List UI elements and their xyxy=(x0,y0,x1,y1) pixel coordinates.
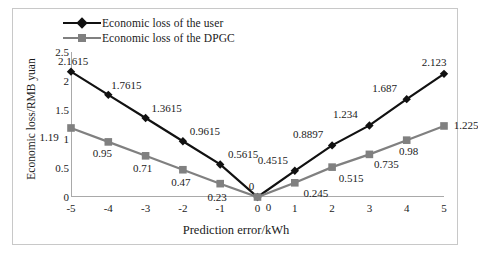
series-lines xyxy=(71,52,444,197)
data-label-dpgc: 1.225 xyxy=(454,119,478,130)
data-point-marker xyxy=(366,151,374,159)
data-label-user: 1.7615 xyxy=(111,79,141,90)
legend-item-dpgc: Economic loss of the DPGC xyxy=(63,30,393,45)
x-tick-label: -2 xyxy=(168,202,198,214)
data-label-dpgc: 0.735 xyxy=(374,159,399,170)
data-point-marker xyxy=(440,122,448,130)
data-point-marker xyxy=(291,179,299,187)
data-point-marker xyxy=(216,180,224,188)
data-label-dpgc: 0.245 xyxy=(303,187,328,198)
x-tick-label: 3 xyxy=(354,202,384,214)
data-label-dpgc: 0.47 xyxy=(171,176,190,187)
legend-label-dpgc: Economic loss of the DPGC xyxy=(102,32,235,44)
data-point-marker xyxy=(67,124,75,132)
x-tick-label: 1 xyxy=(280,202,310,214)
data-point-marker xyxy=(328,163,336,171)
data-label-user: 2.1615 xyxy=(58,55,88,66)
data-label-user: 0.4515 xyxy=(258,154,288,165)
x-tick-label: 5 xyxy=(429,202,459,214)
data-point-marker xyxy=(105,138,113,146)
data-label-user: 0.8897 xyxy=(293,129,323,140)
data-label-user: 0 xyxy=(249,181,255,192)
legend-key-dpgc xyxy=(63,32,101,44)
y-tick-label: 0.5 xyxy=(39,163,69,174)
x-tick-label: 2 xyxy=(317,202,347,214)
data-label-user: 1.687 xyxy=(372,83,397,94)
data-label-user: 2.123 xyxy=(422,56,447,67)
y-axis-title: Economic loss/RMB yuan xyxy=(25,44,37,194)
data-label-dpgc: 1.19 xyxy=(39,131,58,142)
x-tick-label: -1 xyxy=(205,202,235,214)
data-label-dpgc: 0 xyxy=(266,202,272,213)
legend-label-user: Economic loss of the user xyxy=(102,17,223,29)
y-tick-label: 2 xyxy=(39,76,69,87)
legend-item-user: Economic loss of the user xyxy=(63,15,393,30)
x-tick-label: 4 xyxy=(392,202,422,214)
y-tick-label: 1.5 xyxy=(39,105,69,116)
data-label-user: 1.234 xyxy=(333,109,358,120)
x-tick-label: -3 xyxy=(131,202,161,214)
data-label-dpgc: 0.515 xyxy=(339,173,364,184)
x-tick-label: -4 xyxy=(93,202,123,214)
data-label-user: 0.5615 xyxy=(228,149,258,160)
data-point-marker xyxy=(254,193,262,201)
plot-area: 00.511.522.5 -5-4-3-2-1012345 2.16151.76… xyxy=(71,52,444,197)
x-axis-title: Prediction error/kWh xyxy=(13,223,459,238)
x-tick-label: -5 xyxy=(56,202,86,214)
data-label-user: 1.3615 xyxy=(151,103,181,114)
chart-figure: Economic loss of the user Economic loss … xyxy=(12,8,458,245)
data-label-user: 0.9615 xyxy=(190,126,220,137)
legend-key-user xyxy=(63,17,101,29)
data-point-marker xyxy=(142,152,150,160)
data-point-marker xyxy=(179,166,187,174)
square-marker-icon xyxy=(78,34,86,42)
data-label-dpgc: 0.71 xyxy=(133,162,152,173)
data-point-marker xyxy=(403,136,411,144)
data-label-dpgc: 0.23 xyxy=(208,191,227,202)
chart-legend: Economic loss of the user Economic loss … xyxy=(63,15,393,45)
data-label-dpgc: 0.95 xyxy=(93,147,112,158)
data-label-dpgc: 0.98 xyxy=(399,146,418,157)
diamond-marker-icon xyxy=(76,17,87,28)
